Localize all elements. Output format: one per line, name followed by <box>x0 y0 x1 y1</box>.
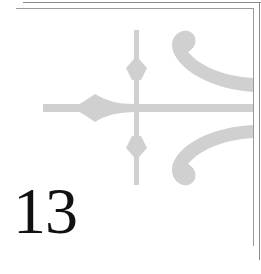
chapter-opener-page: 13 <box>0 0 261 274</box>
chapter-number: 13 <box>13 178 77 244</box>
